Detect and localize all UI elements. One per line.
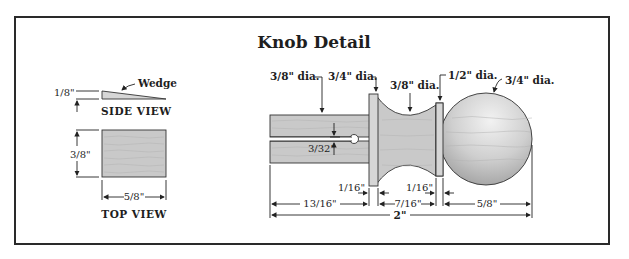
- diagram-title: Knob Detail: [257, 32, 371, 52]
- ball-dia-label: 3/4" dia.: [505, 74, 554, 86]
- tenon-length-label: 13/16": [303, 198, 336, 209]
- bead-width-label: 1/16": [406, 182, 433, 193]
- knob-body: [270, 93, 532, 186]
- bead-dia-label: 1/2" dia.: [448, 69, 497, 81]
- slot-width-label: 3/32": [308, 143, 335, 154]
- collar-width-label: 1/16": [338, 182, 365, 193]
- cove-length-label: 7/16": [394, 198, 421, 209]
- top-view-caption: TOP VIEW: [101, 208, 166, 220]
- top-view-height-label: 3/8": [70, 149, 91, 160]
- side-view-caption: SIDE VIEW: [101, 105, 172, 117]
- cove-dia-label: 3/8" dia.: [390, 79, 439, 91]
- top-view-width-label: 5/8": [124, 191, 145, 202]
- wedge-top-view: 3/8" 5/8" TOP VIEW: [70, 130, 167, 220]
- tenon-dia-label: 3/8" dia.: [270, 70, 319, 82]
- collar-dia-label: 3/4" dia.: [328, 70, 377, 82]
- wedge-side-view: 1/8" Wedge SIDE VIEW: [54, 77, 177, 117]
- wedge-thickness-label: 1/8": [54, 87, 75, 98]
- ball-length-label: 5/8": [477, 198, 498, 209]
- overall-length-label: 2": [394, 209, 407, 221]
- knob-drawing: Knob Detail 1/8" Wedge SIDE VIEW 3/8" 5/…: [0, 0, 629, 259]
- wedge-label: Wedge: [137, 77, 177, 89]
